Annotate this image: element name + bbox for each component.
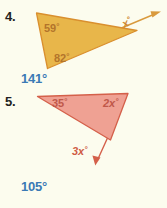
geometry-figures-canvas: 59° 82° x° 35° xyxy=(0,0,167,208)
problem-number-4: 4. xyxy=(5,10,15,23)
problem-number-5: 5. xyxy=(5,95,15,108)
figure-problem-5: 35° 2x° 3x° xyxy=(38,94,129,166)
angle-label-82: 82° xyxy=(54,52,69,65)
answer-value-problem-4: 141° xyxy=(21,72,47,85)
ray-arrowhead-4 xyxy=(151,11,162,17)
angle-label-3x: 3x° xyxy=(72,145,88,158)
answer-value-problem-5: 105° xyxy=(21,180,47,193)
worksheet-page: 59° 82° x° 35° xyxy=(0,0,167,208)
figure-problem-4: 59° 82° x° xyxy=(37,11,162,68)
